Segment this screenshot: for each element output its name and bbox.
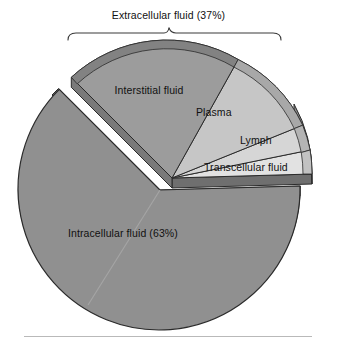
slice-label-plasma: Plasma [196,106,232,118]
slice-label-lymph: Lymph [240,134,272,146]
slice-label-intracellular-fluid: Intracellular fluid (63%) [68,227,178,239]
chart-title: Extracellular fluid (37%) [0,9,337,21]
slice-label-interstitial-fluid: Interstitial fluid [112,84,186,96]
pie-chart-figure: Extracellular fluid (37%) Interstitial f… [0,0,337,344]
extracellular-rim-band-transcellular [301,150,312,174]
extracellular-bracket-icon [68,28,281,40]
slice-label-transcellular-fluid: Transcellular fluid [204,161,288,173]
bottom-divider [24,336,312,337]
